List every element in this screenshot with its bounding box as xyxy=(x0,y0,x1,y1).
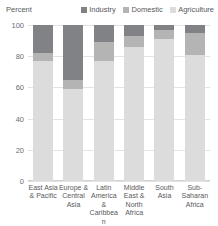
chart-legend: IndustryDomesticAgriculture xyxy=(81,5,214,14)
bar-segment-industry[interactable] xyxy=(124,25,144,36)
bar-segment-agriculture[interactable] xyxy=(33,61,53,181)
gridline: 0 xyxy=(28,181,210,182)
legend-swatch-icon xyxy=(81,7,87,13)
x-axis-label: Middle East & North Africa xyxy=(119,184,149,218)
bar-group xyxy=(28,25,210,181)
bar-segment-agriculture[interactable] xyxy=(185,55,205,181)
legend-swatch-icon xyxy=(170,7,176,13)
legend-item-agriculture[interactable]: Agriculture xyxy=(170,5,214,14)
y-axis-tick-label: 80 xyxy=(16,52,24,61)
bar-column[interactable] xyxy=(94,25,114,181)
bar-segment-industry[interactable] xyxy=(94,25,114,42)
x-axis-labels: East Asia & PacificEurope & Central Asia… xyxy=(28,184,210,226)
bar-segment-industry[interactable] xyxy=(63,25,83,80)
legend-item-domestic[interactable]: Domestic xyxy=(123,5,163,14)
bar-column[interactable] xyxy=(63,25,83,181)
bar-segment-agriculture[interactable] xyxy=(94,61,114,181)
bar-segment-domestic[interactable] xyxy=(154,30,174,39)
bar-column[interactable] xyxy=(124,25,144,181)
bar-segment-agriculture[interactable] xyxy=(63,89,83,181)
x-axis-label: Latin America & Caribbean xyxy=(89,184,119,226)
y-axis-title: Percent xyxy=(6,5,32,15)
bar-segment-domestic[interactable] xyxy=(94,42,114,61)
stacked-bar-chart: Percent IndustryDomesticAgriculture 0204… xyxy=(0,0,218,226)
bar-segment-domestic[interactable] xyxy=(124,36,144,47)
bar-segment-industry[interactable] xyxy=(33,25,53,53)
y-axis-tick-label: 40 xyxy=(16,114,24,123)
legend-label: Agriculture xyxy=(178,5,214,14)
bar-segment-agriculture[interactable] xyxy=(154,39,174,181)
chart-header: Percent IndustryDomesticAgriculture xyxy=(0,5,218,18)
x-axis-label: South Asia xyxy=(149,184,179,201)
x-axis-label: Sub- Saharan Africa xyxy=(180,184,210,209)
bar-segment-industry[interactable] xyxy=(185,25,205,33)
y-axis-tick-label: 60 xyxy=(16,83,24,92)
x-axis-label: Europe & Central Asia xyxy=(58,184,88,209)
bar-segment-domestic[interactable] xyxy=(63,80,83,89)
legend-label: Industry xyxy=(89,5,116,14)
y-axis-tick-label: 20 xyxy=(16,145,24,154)
plot-area: 020406080100 xyxy=(28,25,210,181)
bar-column[interactable] xyxy=(33,25,53,181)
legend-item-industry[interactable]: Industry xyxy=(81,5,116,14)
legend-label: Domestic xyxy=(131,5,162,14)
bar-segment-agriculture[interactable] xyxy=(124,47,144,181)
y-axis-tick-label: 100 xyxy=(11,21,24,30)
bar-column[interactable] xyxy=(154,25,174,181)
bar-segment-domestic[interactable] xyxy=(185,33,205,55)
legend-swatch-icon xyxy=(123,7,129,13)
x-axis-label: East Asia & Pacific xyxy=(28,184,58,201)
y-axis-tick-label: 0 xyxy=(20,177,24,186)
bar-column[interactable] xyxy=(185,25,205,181)
bar-segment-domestic[interactable] xyxy=(33,53,53,61)
